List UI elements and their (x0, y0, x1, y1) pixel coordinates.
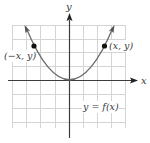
x-axis-label: x (141, 75, 147, 86)
point-left-label: (−x, y) (4, 50, 36, 61)
y-axis-arrow-icon (67, 13, 73, 21)
point-right-label: (x, y) (109, 40, 133, 51)
function-label: y = f(x) (82, 101, 119, 112)
point-right (102, 43, 107, 48)
function-graph: x y (−x, y) (x, y) y = f(x) (0, 0, 150, 143)
y-axis (67, 13, 73, 138)
y-axis-label: y (65, 1, 72, 12)
x-axis (8, 78, 138, 84)
point-left (31, 43, 36, 48)
